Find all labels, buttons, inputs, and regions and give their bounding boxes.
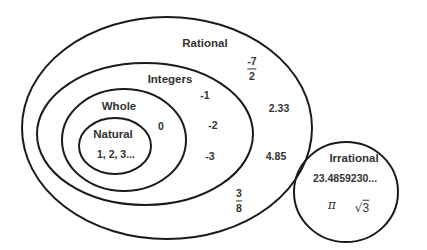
value-neg1: -1 (200, 90, 209, 101)
natural-examples: 1, 2, 3... (97, 149, 135, 160)
fraction-numerator: -7 (247, 55, 256, 67)
rational-label: Rational (182, 38, 227, 50)
sqrt-radicand: 3 (362, 201, 369, 215)
fraction-denominator: 2 (249, 71, 255, 83)
fraction-bar (236, 201, 242, 202)
pi-symbol: π (328, 199, 336, 211)
value-neg3: -3 (205, 151, 214, 162)
integers-set-boundary (37, 63, 253, 205)
rational-set-boundary (22, 17, 312, 239)
fraction-three-eighths: 3 8 (236, 187, 242, 214)
value-neg2: -2 (208, 120, 217, 131)
fraction-numerator: 3 (236, 187, 242, 199)
fraction-denominator: 8 (236, 203, 242, 215)
fraction-bar (247, 69, 256, 70)
value-2-33: 2.33 (269, 103, 289, 114)
natural-set-boundary (79, 118, 151, 174)
integers-label: Integers (148, 74, 193, 86)
irrational-decimal: 23.4859230... (313, 173, 377, 184)
irrational-label: Irrational (329, 153, 378, 165)
sqrt3-expression: √3 (355, 202, 369, 215)
fraction-neg-seven-halves: -7 2 (247, 55, 256, 82)
value-zero: 0 (158, 121, 164, 132)
whole-label: Whole (102, 101, 137, 113)
value-4-85: 4.85 (266, 151, 286, 162)
sqrt-icon: √ (355, 201, 363, 215)
natural-label: Natural (93, 129, 133, 141)
